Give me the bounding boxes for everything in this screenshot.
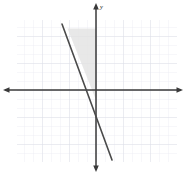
y-axis-label: y bbox=[99, 3, 103, 10]
grid-major bbox=[17, 20, 177, 162]
coordinate-plane-figure: y bbox=[0, 0, 186, 174]
